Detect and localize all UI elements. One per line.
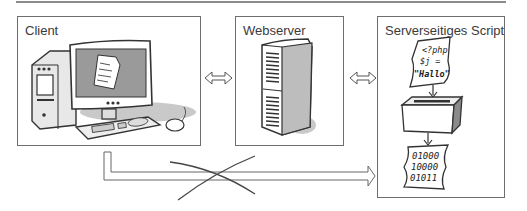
direct-arrow-client-script <box>104 152 375 186</box>
double-arrow-client-webserver <box>205 72 232 84</box>
connections-layer <box>0 0 527 211</box>
double-arrow-webserver-script <box>350 72 376 84</box>
